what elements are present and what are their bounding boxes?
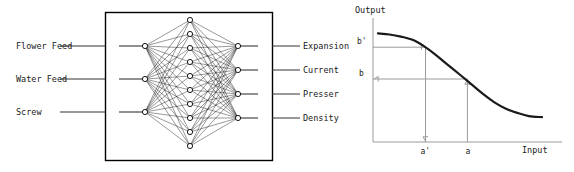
chart-annotations [373,45,470,142]
chart-tick-label-a-prime: a' [421,148,431,156]
output-node-2 [235,91,240,96]
hidden-node-1 [187,31,192,36]
chart-tick-label-b-prime: b' [357,38,367,46]
output-node-0 [235,43,240,48]
hidden-node-4 [187,73,192,78]
output-node-3 [235,115,240,120]
hidden-node-5 [187,87,192,92]
hidden-node-3 [187,59,192,64]
neural-network-svg [0,0,330,172]
neural-network-panel: Flower Feed Water Feed Screw Expansion C… [0,0,330,172]
sigmoid-curve [378,33,542,117]
input-node-2 [142,109,147,114]
figure-root: Flower Feed Water Feed Screw Expansion C… [0,0,574,172]
sigmoid-chart-panel: Output Input b' b a' a [330,0,574,172]
input-label-screw: Screw [16,108,42,117]
chart-y-axis-label: Output [355,6,386,15]
hidden-node-6 [187,101,192,106]
hidden-node-0 [187,17,192,22]
chart-x-axis-label: Input [522,146,548,155]
hidden-node-2 [187,45,192,50]
hidden-node-7 [187,115,192,120]
input-label-flower-feed: Flower Feed [16,42,72,51]
chart-tick-label-a: a [465,148,470,156]
chart-tick-label-b: b [359,70,364,78]
input-node-1 [142,76,147,81]
input-label-water-feed: Water Feed [16,75,67,84]
hidden-node-9 [187,143,192,148]
hidden-node-8 [187,129,192,134]
input-node-0 [142,43,147,48]
output-node-1 [235,67,240,72]
